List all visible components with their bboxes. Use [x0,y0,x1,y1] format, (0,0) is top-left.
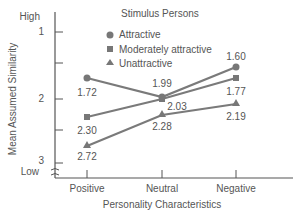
label-moderate-positive: 2.30 [77,125,97,136]
chart-canvas: 1 2 3 High Low Mean Assumed Similarity P… [0,0,303,214]
square-marker-icon [107,46,113,52]
legend-title: Stimulus Persons [121,8,199,19]
y-low-label: Low [21,166,40,177]
label-unattractive-positive: 2.72 [77,151,97,162]
label-unattractive-negative: 2.19 [226,111,246,122]
legend-moderately-attractive: Moderately attractive [119,44,212,55]
x-tick-positive: Positive [69,183,104,194]
legend-attractive: Attractive [119,29,161,40]
x-tick-negative: Negative [216,183,256,194]
triangle-marker-icon [106,59,114,65]
y-tick-2: 2 [38,93,44,104]
label-unattractive-neutral: 2.28 [152,121,172,132]
x-axis-label: Personality Characteristics [103,199,221,210]
y-tick-1: 1 [38,26,44,37]
label-attractive-positive: 1.72 [77,87,97,98]
y-high-label: High [19,11,40,22]
label-moderate-negative: 1.77 [226,86,246,97]
circle-marker-icon [107,32,114,39]
label-moderate-neutral: 2.03 [167,101,187,112]
y-axis-label: Mean Assumed Similarity [7,43,18,155]
label-attractive-neutral: 1.99 [152,78,172,89]
y-tick-3: 3 [38,155,44,166]
x-tick-neutral: Neutral [146,183,178,194]
line-chart: 1 2 3 High Low Mean Assumed Similarity P… [0,0,303,214]
legend-unattractive: Unattractive [119,58,173,69]
label-attractive-negative: 1.60 [226,51,246,62]
